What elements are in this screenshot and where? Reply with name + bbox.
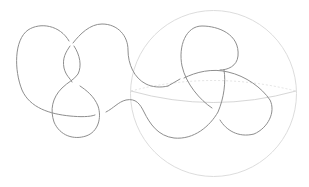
diagram-svg bbox=[0, 0, 309, 187]
knot-strand-left-lobe bbox=[17, 26, 95, 117]
knot-strand-right-exit bbox=[168, 79, 180, 86]
knot-strand-mid-cross bbox=[52, 46, 99, 137]
equator-back bbox=[131, 81, 296, 92]
knot-strand-upper-arch bbox=[73, 24, 168, 87]
knot-diagram bbox=[0, 0, 309, 187]
sphere-outline bbox=[131, 11, 297, 177]
knot-strand-sphere-loop bbox=[181, 26, 238, 108]
equator-front bbox=[131, 91, 296, 103]
knot-strand-sphere-arc bbox=[184, 70, 272, 135]
knot-strand-upper-middle bbox=[63, 46, 72, 82]
knot-strands bbox=[17, 24, 272, 138]
